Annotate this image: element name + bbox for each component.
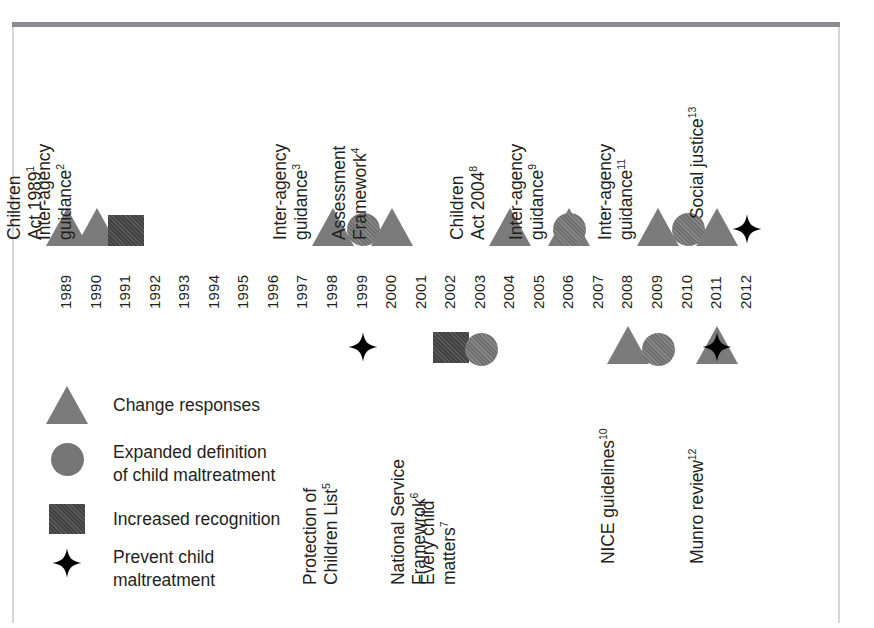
year-tick-1993: 1993 <box>175 275 192 309</box>
label-line: Social justice13 <box>687 107 708 219</box>
timeline-figure: 1989199019911992199319941995199619971998… <box>0 0 874 628</box>
inter-agency-guidance-1999-label: Inter-agencyguidance3 <box>270 144 312 240</box>
label-line: National Service <box>388 459 409 585</box>
social-justice-2012-label: Social justice13 <box>687 107 708 219</box>
circle-marker <box>642 333 675 366</box>
frame-top-border <box>12 22 840 27</box>
year-tick-2010: 2010 <box>678 275 695 309</box>
year-tick-2012: 2012 <box>737 275 754 309</box>
frame-right-border <box>838 27 840 623</box>
reference-superscript: 3 <box>290 164 302 170</box>
label-line: Every child <box>418 501 439 586</box>
label-line: NICE guidelines10 <box>598 429 619 564</box>
label-line: Inter-agency <box>506 144 527 240</box>
legend-label-star: Prevent child maltreatment <box>113 546 215 592</box>
label-line: Framework4 <box>350 146 371 240</box>
inter-agency-guidance-1991-label: Inter-agencyguidance2 <box>34 144 76 240</box>
label-line: Munro review12 <box>687 449 708 564</box>
nice-guidelines-label: NICE guidelines10 <box>598 429 619 564</box>
square-marker <box>433 332 469 363</box>
legend-label-circle: Expanded definition of child maltreatmen… <box>113 441 275 487</box>
reference-superscript: 6 <box>408 493 420 499</box>
year-tick-2009: 2009 <box>648 275 665 309</box>
legend-marker-circle <box>51 443 84 476</box>
legend-marker-star <box>52 548 82 578</box>
reference-superscript: 10 <box>598 429 610 440</box>
year-tick-2007: 2007 <box>589 275 606 309</box>
year-tick-1996: 1996 <box>264 275 281 309</box>
year-tick-2005: 2005 <box>530 275 547 309</box>
reference-superscript: 11 <box>615 159 627 170</box>
year-tick-2002: 2002 <box>441 275 458 309</box>
reference-superscript: 13 <box>686 107 698 118</box>
legend-label-triangle: Change responses <box>113 394 260 417</box>
label-line: guidance9 <box>527 144 548 240</box>
label-line: Assessment <box>329 146 350 240</box>
year-tick-2003: 2003 <box>471 275 488 309</box>
every-child-matters-label: Every childmatters7 <box>418 501 460 586</box>
triangle-marker <box>371 208 413 246</box>
legend-marker-square <box>49 504 85 534</box>
circle-marker <box>465 333 498 366</box>
year-tick-1994: 1994 <box>205 275 222 309</box>
year-tick-2004: 2004 <box>500 275 517 309</box>
inter-agency-guidance-2006-label: Inter-agencyguidance9 <box>506 144 548 240</box>
year-tick-2001: 2001 <box>412 275 429 309</box>
square-marker <box>108 215 144 246</box>
frame-left-border <box>12 27 14 623</box>
reference-superscript: 7 <box>438 522 450 528</box>
year-tick-1991: 1991 <box>116 275 133 309</box>
star-marker <box>732 214 762 244</box>
label-line: guidance11 <box>616 144 637 240</box>
assessment-framework-2000-label: AssessmentFramework4 <box>329 146 371 240</box>
year-tick-2006: 2006 <box>559 275 576 309</box>
year-tick-1992: 1992 <box>146 275 163 309</box>
reference-superscript: 2 <box>54 164 66 170</box>
year-tick-2000: 2000 <box>382 275 399 309</box>
munro-review-label: Munro review12 <box>687 449 708 564</box>
reference-superscript: 12 <box>686 449 698 460</box>
year-tick-1998: 1998 <box>323 275 340 309</box>
year-tick-1995: 1995 <box>234 275 251 309</box>
reference-superscript: 8 <box>467 166 479 172</box>
year-tick-1989: 1989 <box>57 275 74 309</box>
label-line: Inter-agency <box>270 144 291 240</box>
label-line: Inter-agency <box>595 144 616 240</box>
year-tick-2008: 2008 <box>618 275 635 309</box>
reference-superscript: 4 <box>349 148 361 154</box>
children-act-2004-label: ChildrenAct 20048 <box>447 166 489 240</box>
protection-of-children-list-label: Protection ofChildren List5 <box>300 483 342 585</box>
label-line: Act 20048 <box>468 166 489 240</box>
label-line: matters7 <box>439 501 460 586</box>
inter-agency-guidance-2010-label: Inter-agencyguidance11 <box>595 144 637 240</box>
year-tick-1997: 1997 <box>293 275 310 309</box>
label-line: guidance2 <box>55 144 76 240</box>
star-marker <box>702 332 732 362</box>
label-line: Children <box>4 166 25 240</box>
label-line: Protection of <box>300 483 321 585</box>
year-tick-1999: 1999 <box>353 275 370 309</box>
label-line: Children <box>447 166 468 240</box>
year-tick-2011: 2011 <box>707 276 724 309</box>
reference-superscript: 9 <box>527 164 539 170</box>
star-marker <box>348 332 378 362</box>
label-line: guidance3 <box>291 144 312 240</box>
year-tick-1990: 1990 <box>87 275 104 309</box>
legend-label-square: Increased recognition <box>113 508 280 531</box>
label-line: Inter-agency <box>34 144 55 240</box>
legend-marker-triangle <box>46 386 88 424</box>
reference-superscript: 5 <box>320 483 332 489</box>
label-line: Children List5 <box>321 483 342 585</box>
